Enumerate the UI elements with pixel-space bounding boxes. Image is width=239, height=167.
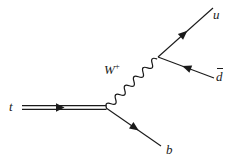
bottom-quark-direction-arrow-icon	[129, 122, 141, 134]
label-up-quark: u	[213, 8, 220, 21]
label-w-boson: W+	[104, 62, 120, 76]
top-quark-direction-arrow-icon	[56, 103, 65, 111]
label-top-quark: t	[9, 100, 13, 113]
feynman-diagram-canvas: t W+ u d b	[0, 0, 239, 167]
label-bottom-quark: b	[166, 143, 173, 156]
label-w-boson-symbol: W	[104, 62, 115, 77]
anti-down-quark-direction-arrow-icon	[181, 62, 192, 73]
label-anti-down-quark-symbol: d	[216, 70, 223, 83]
label-anti-down-quark: d	[216, 70, 223, 83]
label-w-boson-charge: +	[115, 61, 120, 71]
feynman-diagram-svg	[0, 0, 239, 167]
